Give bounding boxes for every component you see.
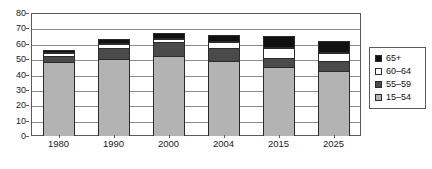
bar-segment xyxy=(263,67,295,136)
y-axis-tick-label: 80 xyxy=(16,9,26,18)
bar-segment xyxy=(208,61,240,136)
bars-layer xyxy=(31,13,361,136)
x-axis-tick-label: 1980 xyxy=(31,138,86,150)
stacked-bar-chart: 01020304050607080 1980199020002004201520… xyxy=(0,0,432,169)
bar-segment xyxy=(318,71,350,136)
y-axis: 01020304050607080 xyxy=(0,13,29,136)
bar-column xyxy=(153,33,185,136)
y-axis-tick-mark xyxy=(26,28,29,29)
bar-column xyxy=(43,50,75,136)
legend-item: 15–54 xyxy=(375,91,421,104)
chart-legend: 65+60–6455–5915–54 xyxy=(369,47,426,109)
bar-segment xyxy=(263,58,295,67)
legend-item-label: 60–64 xyxy=(386,67,411,76)
y-axis-tick-label: 50 xyxy=(16,55,26,64)
bar-segment xyxy=(153,33,185,39)
legend-swatch-icon xyxy=(375,55,382,62)
bar-segment xyxy=(318,53,350,61)
x-axis-tick-label: 2025 xyxy=(306,138,361,150)
x-axis-tick-mark xyxy=(59,135,60,138)
x-axis-tick-label: 2015 xyxy=(251,138,306,150)
y-axis-tick-mark xyxy=(26,136,29,137)
legend-item: 60–64 xyxy=(375,65,421,78)
legend-item-label: 65+ xyxy=(386,54,401,63)
bar-segment xyxy=(43,53,75,56)
bar-segment xyxy=(98,48,130,59)
legend-item: 65+ xyxy=(375,52,421,65)
y-axis-tick-mark xyxy=(26,121,29,122)
bar-segment xyxy=(263,48,295,57)
x-axis-tick-mark xyxy=(169,135,170,138)
bar-segment xyxy=(98,44,130,49)
legend-item: 55–59 xyxy=(375,78,421,91)
y-axis-tick-mark xyxy=(26,90,29,91)
bar-segment xyxy=(208,42,240,48)
bar-segment xyxy=(98,39,130,44)
y-axis-tick-label: 60 xyxy=(16,39,26,48)
bar-segment xyxy=(43,50,75,53)
bar-column xyxy=(208,35,240,136)
y-axis-tick-label: 70 xyxy=(16,24,26,33)
y-axis-tick-mark xyxy=(26,59,29,60)
bar-column xyxy=(263,36,295,136)
x-axis-tick-mark xyxy=(334,135,335,138)
bar-column xyxy=(318,41,350,136)
legend-item-label: 15–54 xyxy=(386,93,411,102)
bar-segment xyxy=(318,61,350,72)
y-axis-tick-mark xyxy=(26,44,29,45)
bar-segment xyxy=(153,42,185,56)
legend-swatch-icon xyxy=(375,94,382,101)
x-axis-tick-mark xyxy=(224,135,225,138)
y-axis-tick-label: 30 xyxy=(16,85,26,94)
x-axis-tick-label: 1990 xyxy=(86,138,141,150)
bar-segment xyxy=(43,62,75,136)
bar-segment xyxy=(153,56,185,136)
bar-segment xyxy=(263,36,295,48)
legend-swatch-icon xyxy=(375,68,382,75)
x-axis-tick-mark xyxy=(279,135,280,138)
x-axis-tick-label: 2004 xyxy=(196,138,251,150)
x-axis: 198019902000200420152025 xyxy=(31,138,361,154)
x-axis-tick-label: 2000 xyxy=(141,138,196,150)
bar-column xyxy=(98,39,130,136)
bar-segment xyxy=(318,41,350,53)
legend-swatch-icon xyxy=(375,81,382,88)
y-axis-tick-mark xyxy=(26,75,29,76)
y-axis-tick-mark xyxy=(26,13,29,14)
y-axis-tick-label: 40 xyxy=(16,70,26,79)
y-axis-tick-label: 10 xyxy=(16,116,26,125)
x-axis-tick-mark xyxy=(114,135,115,138)
y-axis-tick-label: 20 xyxy=(16,101,26,110)
legend-item-label: 55–59 xyxy=(386,80,411,89)
bar-segment xyxy=(208,35,240,43)
bar-segment xyxy=(153,39,185,42)
bar-segment xyxy=(43,56,75,62)
y-axis-tick-mark xyxy=(26,105,29,106)
bar-segment xyxy=(98,59,130,136)
bar-segment xyxy=(208,48,240,60)
